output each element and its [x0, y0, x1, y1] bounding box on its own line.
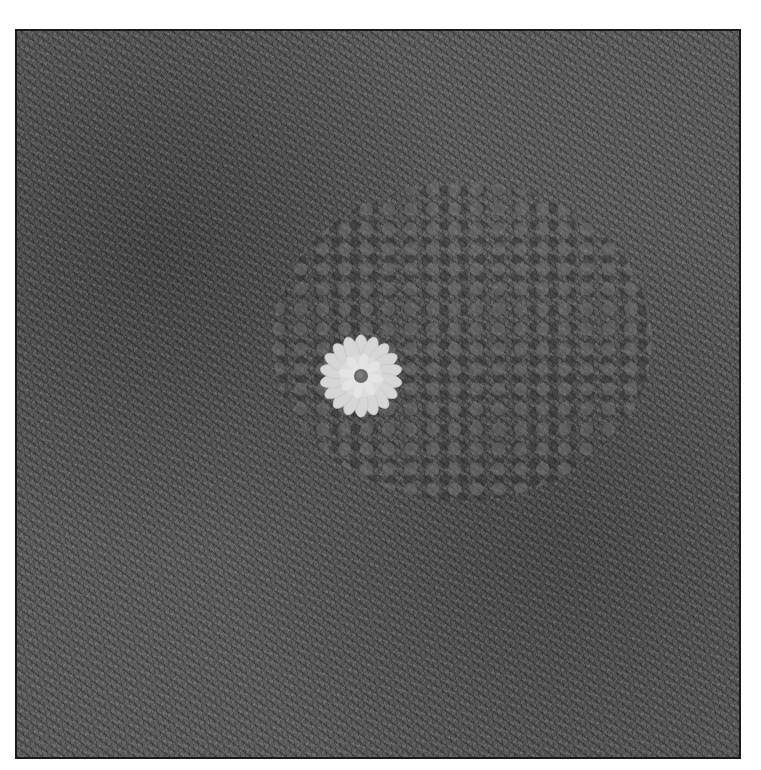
- flower-icon: [317, 332, 405, 420]
- photo-frame: [15, 29, 741, 759]
- daisy-flower: [317, 332, 405, 420]
